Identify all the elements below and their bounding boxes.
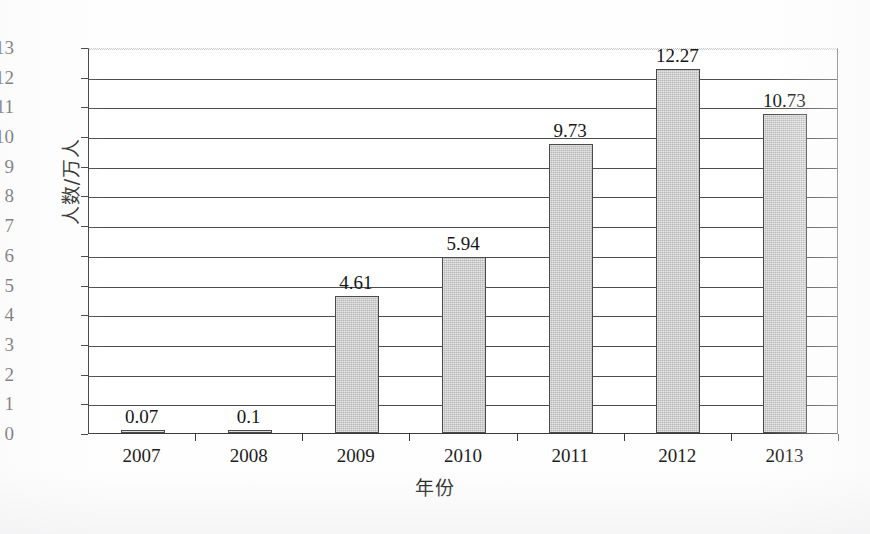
x-tick-label: 2010 bbox=[413, 446, 513, 466]
bar-2008 bbox=[228, 430, 272, 433]
x-tick-mark bbox=[517, 434, 518, 441]
bar-2012 bbox=[656, 69, 700, 433]
bar-2009 bbox=[335, 296, 379, 433]
y-tick-mark bbox=[81, 48, 88, 49]
x-tick-mark bbox=[731, 434, 732, 441]
y-tick-label: 3 bbox=[0, 335, 14, 354]
gridline bbox=[89, 168, 837, 169]
y-tick-mark bbox=[81, 315, 88, 316]
y-tick-label: 11 bbox=[0, 97, 14, 116]
bar-value-label: 4.61 bbox=[311, 273, 401, 292]
x-axis-title: 年份 bbox=[0, 473, 870, 500]
y-tick-label: 4 bbox=[0, 305, 14, 324]
x-tick-mark bbox=[409, 434, 410, 441]
y-tick-label: 12 bbox=[0, 68, 14, 87]
x-tick-mark bbox=[302, 434, 303, 441]
y-tick-label: 0 bbox=[0, 424, 14, 443]
y-tick-label: 1 bbox=[0, 394, 14, 413]
y-tick-mark bbox=[81, 256, 88, 257]
y-tick-mark bbox=[81, 345, 88, 346]
x-tick-mark bbox=[195, 434, 196, 441]
bar-chart-figure: 人数/万人 012345678910111213 0.070.14.615.94… bbox=[0, 0, 870, 534]
y-tick-mark bbox=[81, 375, 88, 376]
y-tick-mark bbox=[81, 78, 88, 79]
gridline bbox=[89, 108, 837, 109]
gridline bbox=[89, 197, 837, 198]
x-tick-mark bbox=[624, 434, 625, 441]
y-tick-label: 13 bbox=[0, 38, 14, 57]
y-tick-mark bbox=[81, 226, 88, 227]
bar-value-label: 0.07 bbox=[97, 407, 187, 426]
x-tick-label: 2007 bbox=[92, 446, 192, 466]
y-tick-label: 5 bbox=[0, 276, 14, 295]
bar-2013 bbox=[763, 114, 807, 433]
bar-value-label: 0.1 bbox=[204, 407, 294, 426]
y-tick-mark bbox=[81, 434, 88, 435]
y-tick-mark bbox=[81, 137, 88, 138]
bar-value-label: 5.94 bbox=[418, 234, 508, 253]
gridline bbox=[89, 49, 837, 50]
y-tick-label: 6 bbox=[0, 246, 14, 265]
x-tick-mark bbox=[838, 434, 839, 441]
x-tick-label: 2008 bbox=[199, 446, 299, 466]
x-tick-label: 2012 bbox=[627, 446, 727, 466]
gridline bbox=[89, 227, 837, 228]
y-tick-label: 2 bbox=[0, 365, 14, 384]
bar-2007 bbox=[121, 430, 165, 433]
bar-2011 bbox=[549, 144, 593, 433]
x-tick-label: 2013 bbox=[734, 446, 834, 466]
bar-value-label: 9.73 bbox=[525, 121, 615, 140]
bar-value-label: 12.27 bbox=[632, 46, 722, 65]
y-tick-label: 9 bbox=[0, 157, 14, 176]
gridline bbox=[89, 138, 837, 139]
x-tick-label: 2009 bbox=[306, 446, 406, 466]
bar-2010 bbox=[442, 257, 486, 433]
bar-value-label: 10.73 bbox=[739, 91, 829, 110]
y-tick-mark bbox=[81, 286, 88, 287]
y-axis-title: 人数/万人 bbox=[56, 107, 83, 257]
y-tick-mark bbox=[81, 404, 88, 405]
gridline bbox=[89, 79, 837, 80]
y-tick-label: 10 bbox=[0, 127, 14, 146]
y-tick-mark bbox=[81, 107, 88, 108]
y-tick-mark bbox=[81, 167, 88, 168]
y-tick-label: 7 bbox=[0, 216, 14, 235]
x-tick-label: 2011 bbox=[520, 446, 620, 466]
y-tick-label: 8 bbox=[0, 186, 14, 205]
y-tick-mark bbox=[81, 196, 88, 197]
